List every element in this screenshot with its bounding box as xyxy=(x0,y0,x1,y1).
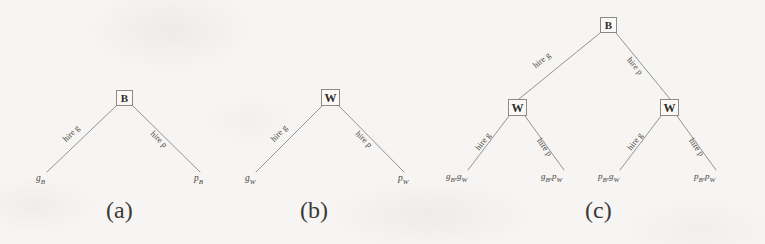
edge-c-root-hire-g xyxy=(519,33,600,99)
leaf-a-gB: gB xyxy=(36,174,45,186)
node-c-right-W[interactable]: W xyxy=(660,99,679,116)
leaf-a-pB-sub: B xyxy=(199,178,203,186)
caption-a: (a) xyxy=(106,198,133,222)
node-c-left-W[interactable]: W xyxy=(508,99,527,116)
leaf-c-2-second-sub: W xyxy=(557,176,563,184)
leaf-a-gB-sub: B xyxy=(41,178,45,186)
leaf-a-pB: pB xyxy=(194,174,203,186)
leaf-b-gW-sub: W xyxy=(250,178,256,186)
caption-b: (b) xyxy=(300,198,328,222)
node-c-root-B[interactable]: B xyxy=(600,17,617,33)
caption-c: (c) xyxy=(585,198,612,222)
leaf-c-pB-gW: pB,gW xyxy=(598,172,619,184)
edge-b-hire-g xyxy=(256,106,322,172)
edge-a-hire-g xyxy=(47,106,116,172)
leaf-c-3-second-sub: W xyxy=(614,176,620,184)
leaf-c-pB-pW: pB,pW xyxy=(694,172,715,184)
leaf-c-gB-pW: gB,pW xyxy=(541,172,562,184)
leaf-b-gW: gW xyxy=(245,174,256,186)
leaf-b-pW: pW xyxy=(398,174,409,186)
game-tree-figure: B hire g hire p gB pB (a) W hire g hire … xyxy=(0,0,765,244)
edge-c-root-hire-p xyxy=(616,33,670,99)
leaf-c-gB-gW: gB,gW xyxy=(446,172,467,184)
node-b-root-W[interactable]: W xyxy=(321,89,340,106)
leaf-b-pW-sub: W xyxy=(403,178,409,186)
leaf-c-4-second-sub: W xyxy=(710,176,716,184)
node-a-root-B[interactable]: B xyxy=(116,90,133,106)
leaf-c-1-second-sub: W xyxy=(462,176,468,184)
